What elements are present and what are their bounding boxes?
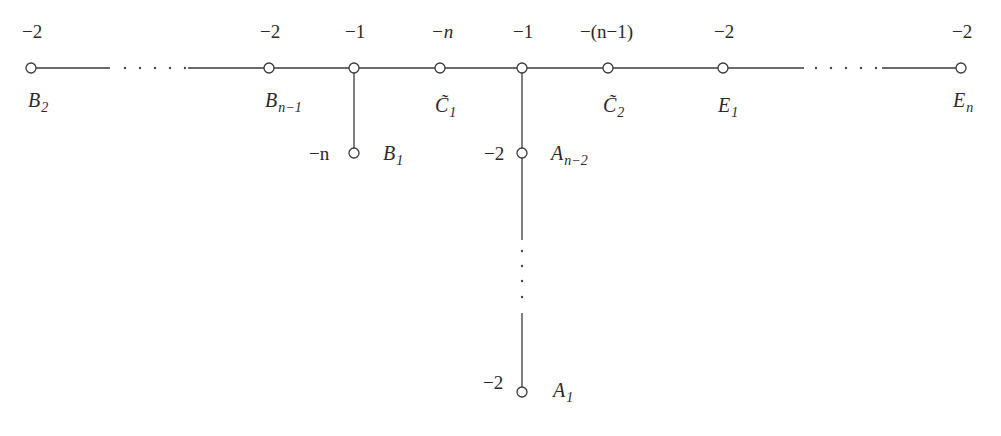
label-a1: A1 xyxy=(551,379,573,405)
weight-c1: −n xyxy=(431,21,453,42)
node-c2 xyxy=(603,63,613,73)
weight-a1: −2 xyxy=(483,372,503,393)
weight-c2: −(n−1) xyxy=(580,21,633,43)
weight-en: −2 xyxy=(952,21,972,42)
labels: B2 Bn−1 C̃1 C̃2 E1 En B1 An−2 A1 xyxy=(28,89,973,405)
node-b1 xyxy=(349,148,359,158)
horizontal-chain xyxy=(36,67,956,69)
dual-graph-diagram: −2 −2 −1 −n −1 −(n−1) −2 −2 −n −2 −2 B2 … xyxy=(0,0,1001,436)
node-j1 xyxy=(349,63,359,73)
node-b2 xyxy=(26,63,36,73)
label-en: En xyxy=(952,89,973,115)
label-b2: B2 xyxy=(28,89,48,115)
weight-b2: −2 xyxy=(22,21,42,42)
node-bn1 xyxy=(264,63,274,73)
weight-j1: −1 xyxy=(345,21,365,42)
label-e1: E1 xyxy=(717,94,738,120)
label-c2: C̃2 xyxy=(603,94,624,120)
label-an2: An−2 xyxy=(549,142,588,168)
weights: −2 −2 −1 −n −1 −(n−1) −2 −2 −n −2 −2 xyxy=(22,21,972,393)
weight-bn1: −2 xyxy=(260,21,280,42)
node-a1 xyxy=(517,387,527,397)
node-j2 xyxy=(517,63,527,73)
node-en xyxy=(956,63,966,73)
weight-e1: −2 xyxy=(714,21,734,42)
label-c1: C̃1 xyxy=(435,94,456,120)
node-c1 xyxy=(435,63,445,73)
ellipsis-left xyxy=(124,67,186,69)
vertical-branches xyxy=(354,73,523,387)
node-e1 xyxy=(718,63,728,73)
ellipsis-right xyxy=(815,67,877,69)
label-b1: B1 xyxy=(383,142,403,168)
weight-b1: −n xyxy=(309,143,330,164)
node-an2 xyxy=(517,148,527,158)
nodes xyxy=(26,63,966,397)
label-bn1: Bn−1 xyxy=(265,89,302,115)
weight-j2: −1 xyxy=(513,21,533,42)
weight-an2: −2 xyxy=(484,143,504,164)
ellipsis-vertical xyxy=(521,250,523,298)
